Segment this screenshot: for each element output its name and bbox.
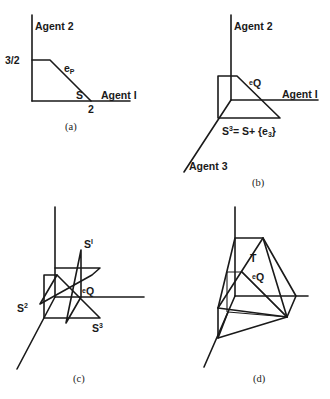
- panel-b: Agent 2 Agent I Agent 3 eQ S3= S+ {e3} (…: [184, 15, 318, 189]
- agent1-label: Agent I: [101, 89, 137, 101]
- t-label: T: [250, 252, 257, 264]
- caption-c: (c): [73, 373, 85, 385]
- s3-label: S3: [92, 322, 103, 334]
- caption-b: (b): [252, 177, 265, 189]
- eq-label: eQ: [252, 271, 264, 283]
- set-t-edge: [218, 312, 228, 338]
- y-tick-label: 3/2: [5, 54, 20, 66]
- caption-a: (a): [65, 121, 77, 133]
- agent2-label: Agent 2: [234, 20, 273, 32]
- figure-canvas: Agent 2 Agent I 3/2 2 eP S (a) Agent 2 A…: [0, 0, 330, 399]
- s2-label: S2: [17, 302, 28, 314]
- panel-d: T eQ (d): [204, 207, 308, 385]
- agent2-label: Agent 2: [35, 20, 74, 32]
- agent3-label: Agent 3: [189, 160, 228, 172]
- s-label: S: [76, 89, 83, 101]
- x-tick-label: 2: [88, 103, 94, 115]
- caption-d: (d): [253, 373, 266, 385]
- eq-label: eQ: [249, 77, 261, 89]
- eq-label: eQ: [82, 285, 94, 297]
- s3-definition-label: S3= S+ {e3}: [222, 125, 276, 138]
- panel-c: SI S2 S3 eQ (c): [17, 207, 144, 385]
- panel-a: Agent 2 Agent I 3/2 2 eP S (a): [5, 15, 137, 133]
- s1-label: SI: [84, 238, 93, 250]
- agent1-label: Agent I: [282, 88, 318, 100]
- ep-label: eP: [64, 62, 75, 75]
